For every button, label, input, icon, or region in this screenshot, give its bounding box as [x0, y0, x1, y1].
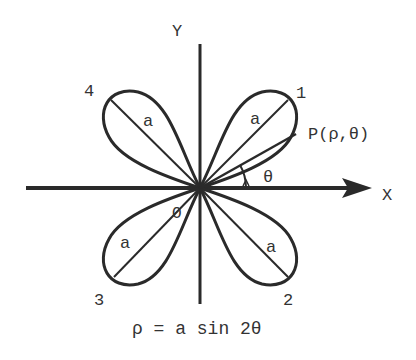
- origin-label: O: [172, 205, 182, 223]
- x-axis-label: X: [382, 186, 392, 205]
- petal-3-number: 3: [94, 291, 104, 310]
- petal-1-number: 1: [296, 84, 306, 103]
- angle-theta-label: θ: [263, 168, 273, 187]
- radius-line-petal-3: [114, 188, 200, 277]
- point-p-ray: [200, 134, 296, 188]
- petal-2-radius-label: a: [266, 238, 276, 257]
- petal-1-radius-label: a: [250, 110, 260, 129]
- rose-curve-diagram: Y X O 1 2 3 4 a a a a P(ρ,θ) θ ρ = a sin…: [0, 0, 416, 360]
- radius-line-petal-2: [200, 188, 288, 277]
- equation-label: ρ = a sin 2θ: [132, 319, 262, 339]
- petal-4-number: 4: [84, 82, 94, 101]
- petal-3-radius-label: a: [120, 234, 130, 253]
- radius-line-petal-4: [111, 100, 200, 188]
- petal-2-number: 2: [283, 291, 293, 310]
- y-axis-label: Y: [172, 22, 182, 41]
- petal-4-radius-label: a: [143, 112, 153, 131]
- point-p-label: P(ρ,θ): [308, 125, 369, 144]
